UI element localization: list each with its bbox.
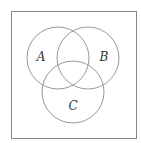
set-c-circle [42, 61, 104, 123]
set-c-label: C [68, 99, 77, 113]
venn-diagram: A B C [0, 0, 141, 143]
set-b-circle [57, 27, 119, 89]
set-a-label: A [36, 50, 46, 64]
set-b-label: B [99, 50, 109, 64]
